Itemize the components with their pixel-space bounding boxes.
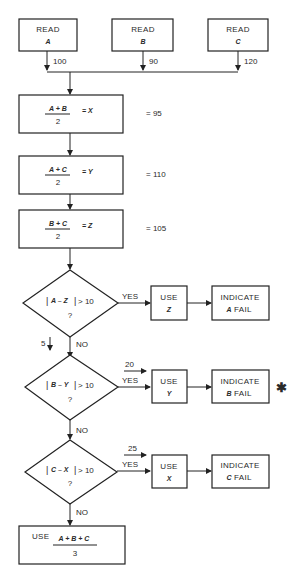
numerator: A + B: [48, 105, 67, 112]
abs-right: |: [74, 296, 76, 306]
yes-annotation: 25: [128, 444, 137, 453]
result-var: = X: [82, 107, 94, 114]
value-a: 100: [53, 57, 67, 66]
use-label: USE: [160, 377, 177, 386]
no-label: NO: [76, 426, 88, 435]
fail-var: A: [225, 306, 231, 313]
final-use-label: USE: [32, 532, 49, 541]
denominator: 2: [56, 232, 61, 241]
decision-question: ?: [68, 311, 73, 320]
result-var: = Z: [82, 222, 93, 229]
result-value-x: = 95: [146, 109, 162, 118]
numerator: B + C: [49, 220, 68, 227]
result-value-z: = 105: [146, 224, 167, 233]
abs-left: |: [46, 465, 48, 475]
use-z-box: USE Z: [151, 286, 187, 320]
fail-label: FAIL: [234, 389, 252, 398]
decision-expr: A – Z: [50, 297, 69, 304]
decision-comparison: > 10: [78, 297, 94, 306]
decision-expr: B – Y: [51, 381, 70, 388]
read-label: READ: [131, 25, 154, 34]
indicate-b-fail-box: INDICATE B FAIL: [212, 370, 269, 403]
use-var: Z: [166, 306, 172, 313]
decision-comparison: > 10: [78, 466, 94, 475]
fail-var: B: [226, 390, 231, 397]
read-box-b: READ B: [112, 19, 173, 51]
final-denominator: 3: [73, 549, 78, 558]
use-y-box: USE Y: [152, 370, 187, 403]
read-box-c: READ C: [208, 19, 268, 51]
compute-box-z: B + C 2 = Z: [19, 210, 123, 248]
read-box-a: READ A: [19, 19, 77, 51]
result-value-y: = 110: [146, 170, 166, 179]
result-var: = Y: [82, 168, 94, 175]
denominator: 2: [56, 178, 61, 187]
indicate-label: INDICATE: [220, 293, 259, 302]
yes-label: YES: [122, 376, 138, 385]
fail-label: FAIL: [234, 473, 252, 482]
no-label: NO: [76, 340, 88, 349]
asterisk-marker: ✱: [276, 380, 287, 395]
decision-expr: C – X: [51, 466, 70, 473]
decision-3: | C – X | > 10 ?: [25, 440, 117, 504]
fail-label: FAIL: [234, 305, 252, 314]
read-var: B: [140, 38, 145, 45]
decision-question: ?: [68, 479, 73, 488]
flowchart: READ A READ B READ C 100 90 120 A + B 2 …: [0, 0, 297, 577]
compute-box-y: A + C 2 = Y: [19, 156, 123, 194]
yes-annotation: 20: [125, 360, 134, 369]
decision-1: | A – Z | > 10 ?: [23, 270, 118, 337]
indicate-a-fail-box: INDICATE A FAIL: [212, 286, 269, 320]
use-x-box: USE X: [152, 455, 187, 488]
abs-left: |: [46, 296, 48, 306]
final-average-box: USE A + B + C 3: [19, 526, 125, 564]
decision-question: ?: [68, 395, 73, 404]
read-var: A: [44, 38, 50, 45]
compute-box-x: A + B 2 = X: [19, 95, 123, 133]
no-annotation: 5: [41, 339, 46, 348]
no-label: NO: [76, 508, 88, 517]
use-label: USE: [160, 462, 177, 471]
indicate-label: INDICATE: [220, 377, 259, 386]
use-label: USE: [160, 293, 177, 302]
numerator: A + C: [48, 166, 68, 173]
indicate-label: INDICATE: [220, 461, 259, 470]
abs-left: |: [46, 380, 48, 390]
read-label: READ: [36, 25, 59, 34]
decision-2: | B – Y | > 10 ?: [25, 355, 118, 420]
yes-label: YES: [122, 460, 138, 469]
indicate-c-fail-box: INDICATE C FAIL: [212, 455, 269, 488]
read-label: READ: [226, 25, 249, 34]
abs-right: |: [74, 465, 76, 475]
decision-comparison: > 10: [78, 381, 94, 390]
yes-label: YES: [122, 292, 138, 301]
final-numerator: A + B + C: [58, 535, 91, 542]
value-b: 90: [149, 57, 158, 66]
value-c: 120: [244, 57, 258, 66]
abs-right: |: [74, 380, 76, 390]
denominator: 2: [56, 117, 61, 126]
